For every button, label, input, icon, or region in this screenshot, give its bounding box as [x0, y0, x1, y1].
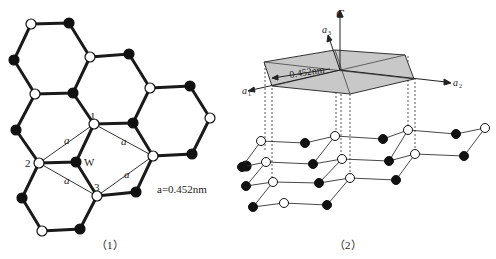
- bond-a-label: a: [121, 135, 127, 147]
- atom-1-label: 1: [90, 110, 96, 122]
- filled-atom: [185, 81, 195, 91]
- figure-1-caption: （1）: [96, 239, 124, 251]
- filled-atom: [68, 88, 78, 98]
- lattice-constant-label: a=0.452nm: [157, 183, 207, 195]
- filled-atom: [301, 139, 310, 148]
- figure-1-atoms: [9, 18, 251, 236]
- filled-atom: [249, 203, 258, 212]
- open-atom: [85, 52, 95, 62]
- filled-atom: [11, 125, 21, 135]
- bond-a-label: a: [64, 134, 70, 146]
- atom-w-label: W: [84, 156, 95, 168]
- open-atom: [262, 158, 271, 167]
- figure-2-caption: （2）: [334, 239, 362, 251]
- bond-a-label: a: [124, 168, 130, 180]
- atom-2-label: 2: [25, 157, 31, 169]
- atom-w: [71, 157, 81, 167]
- open-atom: [481, 124, 490, 133]
- open-atom: [331, 132, 340, 141]
- open-atom: [338, 155, 347, 164]
- open-atom: [30, 89, 40, 99]
- filled-atom: [309, 160, 318, 169]
- filled-atom: [75, 224, 85, 234]
- open-atom: [269, 178, 278, 187]
- axis-a2-subscript: 2: [459, 83, 462, 89]
- filled-atom: [242, 182, 251, 191]
- axis-a2-label: a: [453, 77, 458, 88]
- open-atom: [257, 137, 266, 146]
- filled-atom: [385, 157, 394, 166]
- open-atom: [26, 19, 36, 29]
- open-atom: [346, 174, 355, 183]
- filled-atom: [379, 135, 388, 144]
- filled-atom: [9, 55, 19, 65]
- open-atom: [411, 150, 420, 159]
- open-atom: [404, 126, 413, 135]
- axis-c-label: C: [336, 7, 345, 21]
- atom-3-label: 3: [94, 181, 100, 193]
- filled-atom: [131, 187, 141, 197]
- filled-atom: [323, 201, 332, 210]
- axis-a1-subscript: 1: [248, 91, 251, 97]
- axis-a3-subscript: 3: [328, 30, 331, 36]
- filled-atom: [124, 49, 134, 59]
- atom-2: [34, 158, 44, 168]
- filled-atom: [128, 118, 138, 128]
- diagram-canvas: 1 2 3 W a a a a a=0.452nm （1） C a 3 a: [0, 0, 496, 259]
- open-atom: [280, 199, 289, 208]
- filled-atom: [17, 193, 27, 203]
- axis-a3-arrowhead: [327, 35, 332, 42]
- figure-2-atoms: [238, 124, 490, 212]
- open-atom: [145, 83, 155, 93]
- filled-atom: [315, 179, 324, 188]
- filled-atom: [187, 149, 197, 159]
- bond-a-label: a: [64, 174, 70, 186]
- filled-atom: [452, 130, 461, 139]
- axis-a2-arrowhead: [444, 79, 451, 85]
- filled-atom: [392, 176, 401, 185]
- filled-atom: [238, 163, 247, 172]
- figure-1-honeycomb: [14, 23, 210, 231]
- filled-atom: [460, 152, 469, 161]
- open-atom: [37, 226, 47, 236]
- open-atom: [148, 151, 158, 161]
- open-atom: [205, 113, 215, 123]
- figure-2-lattice-lines: [242, 128, 485, 207]
- hexagonal-plate: [264, 50, 414, 94]
- axis-a1-label: a: [242, 85, 247, 96]
- axis-a3-label: a: [322, 24, 327, 35]
- filled-atom: [64, 18, 74, 28]
